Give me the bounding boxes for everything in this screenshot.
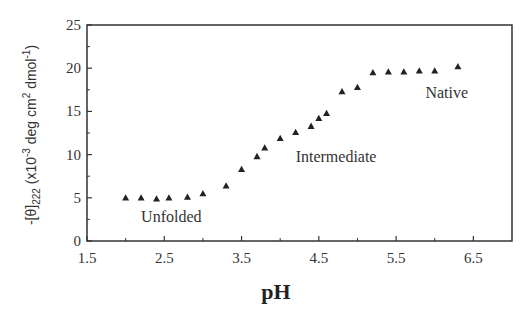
annotations: UnfoldedIntermediateNative [141, 84, 468, 225]
triangle-marker [223, 182, 230, 188]
x-tick-label: 3.5 [232, 250, 251, 266]
chart: 1.52.53.54.55.56.5 0510152025 UnfoldedIn… [0, 0, 530, 322]
y-tick-label: 20 [66, 60, 81, 76]
triangle-marker [277, 135, 284, 141]
y-tick-label: 15 [66, 103, 81, 119]
triangle-marker [431, 67, 438, 73]
data-points [122, 63, 461, 201]
x-axis-label: pH [261, 279, 290, 304]
triangle-marker [308, 123, 315, 129]
y-tick-label: 0 [74, 233, 82, 249]
triangle-marker [369, 69, 376, 75]
y-axis-label: -[θ]222 (x10-3 deg cm2 dmol-1) [21, 45, 42, 225]
triangle-marker [315, 115, 322, 121]
x-tick-label: 6.5 [464, 250, 483, 266]
triangle-marker [292, 129, 299, 135]
x-tick-label: 5.5 [387, 250, 406, 266]
triangle-marker [385, 68, 392, 74]
triangle-marker [400, 68, 407, 74]
triangle-marker [199, 190, 206, 196]
triangle-marker [354, 84, 361, 90]
annotation-unfolded: Unfolded [141, 208, 201, 225]
triangle-marker [184, 193, 191, 199]
x-tick-label: 2.5 [155, 250, 174, 266]
triangle-marker [122, 194, 129, 200]
x-tick-label: 1.5 [78, 250, 97, 266]
x-tick-label: 4.5 [309, 250, 328, 266]
triangle-marker [416, 67, 423, 73]
y-tick-label: 25 [66, 17, 81, 33]
annotation-intermediate: Intermediate [296, 148, 377, 165]
triangle-marker [138, 194, 145, 200]
triangle-marker [165, 194, 172, 200]
y-tick-label: 10 [66, 147, 81, 163]
annotation-native: Native [425, 84, 468, 101]
triangle-marker [238, 166, 245, 172]
triangle-marker [254, 153, 261, 159]
triangle-marker [261, 144, 268, 150]
y-tick-label: 5 [74, 190, 82, 206]
triangle-marker [339, 88, 346, 94]
y-axis-ticks: 0510152025 [66, 17, 92, 249]
triangle-marker [153, 195, 160, 201]
triangle-marker [454, 63, 461, 69]
triangle-marker [323, 110, 330, 116]
